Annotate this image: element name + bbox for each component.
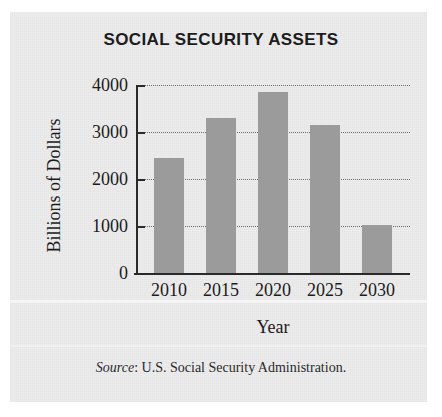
y-tick-label: 1000 xyxy=(58,217,128,235)
x-tick-label: 2030 xyxy=(350,280,404,301)
bar-2010 xyxy=(154,158,184,273)
x-tick-label: 2010 xyxy=(142,280,196,301)
x-tick-label: 2025 xyxy=(298,280,352,301)
y-tick-label: 0 xyxy=(58,264,128,282)
plot-area xyxy=(136,85,410,273)
x-tick-label: 2015 xyxy=(194,280,248,301)
y-tick-mark xyxy=(136,132,145,134)
y-tick-label: 4000 xyxy=(58,76,128,94)
source-note: Source: U.S. Social Security Administrat… xyxy=(0,360,442,376)
y-tick-mark xyxy=(136,179,145,181)
y-axis-tick-labels: 4000 3000 2000 1000 0 xyxy=(56,85,128,275)
source-label: Source xyxy=(96,360,134,375)
x-axis-tick-labels: 2010 2015 2020 2025 2030 xyxy=(136,280,410,302)
bar-2025 xyxy=(310,125,340,273)
bar-2030 xyxy=(362,225,392,273)
page-title: SOCIAL SECURITY ASSETS xyxy=(0,30,442,50)
figure-page: SOCIAL SECURITY ASSETS Billions of Dolla… xyxy=(0,0,442,417)
source-text: U.S. Social Security Administration. xyxy=(142,360,347,375)
x-tick-label: 2020 xyxy=(246,280,300,301)
y-tick-mark xyxy=(136,85,145,87)
x-axis-line xyxy=(134,273,410,275)
y-tick-label: 3000 xyxy=(58,123,128,141)
gridline-4000 xyxy=(140,85,410,86)
y-tick-label: 2000 xyxy=(58,170,128,188)
bar-2015 xyxy=(206,118,236,273)
y-tick-mark xyxy=(136,226,145,228)
bar-2020 xyxy=(258,92,288,273)
source-separator: : xyxy=(134,360,141,375)
x-axis-title: Year xyxy=(136,317,410,338)
